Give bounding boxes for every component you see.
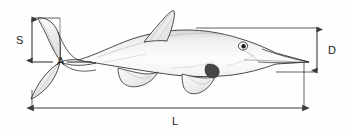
animal-outline [31, 11, 309, 99]
diagram-canvas: S A D L [0, 0, 352, 135]
dimension-label-D: D [328, 45, 336, 56]
dimension-label-A: A [57, 56, 64, 67]
dimension-label-S: S [16, 35, 23, 46]
eye-pupil [241, 44, 245, 48]
dimension-label-L: L [172, 116, 178, 127]
